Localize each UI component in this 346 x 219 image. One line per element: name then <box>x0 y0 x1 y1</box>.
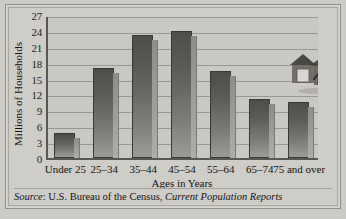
bar-shadow <box>269 104 275 158</box>
x-axis-ticks: Under 2525–3435–4445–5455–6465–7475 and … <box>46 163 318 177</box>
bar-body <box>132 35 153 158</box>
house-illustration <box>284 41 318 99</box>
bar-shadow <box>191 36 197 158</box>
gridline <box>48 17 318 18</box>
bar-shadow <box>113 73 119 158</box>
source-publication: Current Population Reports <box>165 191 282 202</box>
plot-area <box>46 17 318 160</box>
figure-container: 0369121518212427 <box>0 0 346 219</box>
source-divider <box>14 188 332 189</box>
bar <box>249 99 275 158</box>
bar-shadow <box>152 40 158 158</box>
bar-shadow <box>230 76 236 158</box>
source-note: Source: U.S. Bureau of the Census, Curre… <box>14 191 334 203</box>
y-tick-label: 27 <box>2 11 42 22</box>
bar-body <box>210 71 231 158</box>
bar <box>288 102 314 158</box>
bar-shadow <box>308 107 314 158</box>
bar-body <box>288 102 309 158</box>
y-axis-title: Millions of Households <box>12 24 24 164</box>
bar-body <box>93 68 114 158</box>
source-label: Source <box>14 191 43 202</box>
bar <box>132 35 158 158</box>
bar <box>54 133 80 158</box>
bar-body <box>249 99 270 158</box>
source-agency: U.S. Bureau of the Census, <box>48 191 165 202</box>
bar <box>171 31 197 158</box>
bar-shadow <box>74 138 80 158</box>
bar-body <box>171 31 192 158</box>
x-tick-label: 75 and over <box>273 163 324 175</box>
bar <box>210 71 236 158</box>
bar <box>93 68 119 158</box>
bar-body <box>54 133 75 158</box>
